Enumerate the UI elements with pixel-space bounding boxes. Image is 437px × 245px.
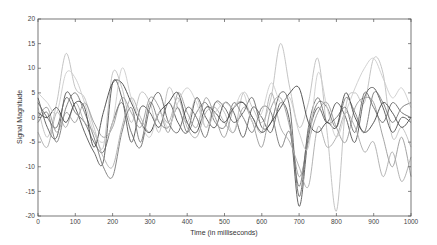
y-axis-label: Signal Magnitude	[16, 90, 24, 144]
y-tick-label: 20	[28, 15, 36, 22]
y-tick-label: 15	[28, 40, 36, 47]
x-tick-label: 500	[219, 218, 230, 225]
x-axis-label: Time (in milliseconds)	[190, 229, 257, 237]
y-tick-label: -5	[29, 138, 35, 145]
x-tick-label: 200	[107, 218, 118, 225]
y-axis: 20151050-5-10-15-20	[26, 15, 411, 219]
x-tick-label: 0	[36, 218, 40, 225]
x-tick-label: 600	[256, 218, 267, 225]
y-tick-label: 10	[28, 64, 36, 71]
y-tick-label: 5	[31, 89, 35, 96]
x-tick-label: 1000	[404, 218, 419, 225]
x-tick-label: 300	[144, 218, 155, 225]
plot-series-group	[38, 44, 411, 212]
line-chart: 01002003004005006007008009001000 2015105…	[0, 0, 437, 245]
x-tick-label: 800	[331, 218, 342, 225]
y-tick-label: -10	[26, 163, 36, 170]
y-tick-label: 0	[31, 114, 35, 121]
y-tick-label: -20	[26, 212, 36, 219]
x-tick-label: 400	[182, 218, 193, 225]
series-line-3	[38, 92, 411, 187]
x-tick-label: 900	[368, 218, 379, 225]
x-tick-label: 100	[70, 218, 81, 225]
y-tick-label: -15	[26, 188, 36, 195]
x-tick-label: 700	[294, 218, 305, 225]
series-line-4	[38, 92, 411, 176]
